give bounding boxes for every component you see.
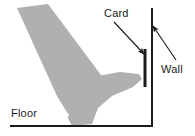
wall-label: Wall xyxy=(161,63,183,75)
card-label: Card xyxy=(104,7,129,19)
figure-canvas: Card Wall Floor xyxy=(0,0,195,136)
floor-label: Floor xyxy=(11,107,37,119)
wall-leader-arrow xyxy=(153,26,176,60)
card-leader-arrow xyxy=(114,22,144,54)
